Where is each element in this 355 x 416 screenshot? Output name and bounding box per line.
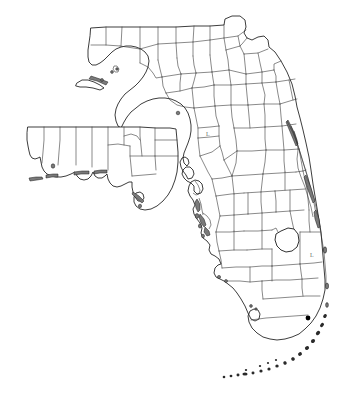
key-islet-17: [259, 365, 261, 367]
western-panhandle-outline: [27, 127, 178, 210]
key-islet-12: [252, 372, 255, 375]
bigbend-islet-1: [176, 111, 180, 115]
atlantic-barrier-islet-a: [323, 247, 326, 253]
key-islet-13: [242, 372, 247, 375]
map-canvas: L L: [0, 0, 355, 416]
gulf-barrier-islet-9: [250, 305, 253, 308]
florida-map-svg: L L: [0, 0, 355, 416]
key-islet-10: [267, 368, 270, 371]
key-islet-03: [315, 330, 321, 336]
key-islet-19: [275, 359, 277, 361]
key-islet-20: [245, 369, 247, 371]
lake-county-label: L: [206, 131, 210, 137]
nw-barrier-islet-4: [116, 68, 119, 71]
lake-okeechobee-label: L: [310, 252, 314, 258]
key-islet-02: [319, 322, 325, 328]
key-islet-07: [291, 357, 296, 362]
key-islet-11: [259, 370, 262, 373]
nw-barrier-islet-2: [101, 79, 104, 82]
key-islet-06: [297, 351, 302, 356]
gulf-barrier-islet-4: [195, 214, 199, 219]
gulf-barrier-islet-10: [255, 308, 257, 310]
key-islet-15: [230, 375, 233, 378]
key-islet-18: [267, 362, 269, 364]
atlantic-barrier-islet-b: [325, 283, 328, 289]
atlantic-barrier-islet-c: [326, 303, 329, 308]
key-islet-09: [275, 364, 278, 367]
key-islet-01: [322, 313, 327, 318]
western-panhandle-group: [27, 127, 178, 210]
panhandle-barrier-islet-6: [51, 164, 55, 168]
key-islet-14: [237, 374, 240, 377]
southeast-city-marker: [306, 316, 311, 321]
key-islet-04: [310, 338, 316, 344]
key-islet-05: [304, 345, 310, 350]
key-islet-16: [223, 376, 226, 378]
point-markers-group: [306, 316, 311, 321]
panhandle-barrier-island-1: [29, 177, 43, 181]
panhandle-barrier-islet-7: [138, 204, 141, 208]
gulf-barrier-islet-5: [198, 224, 201, 228]
gulf-barrier-islet-7: [217, 275, 220, 278]
key-islet-08: [283, 361, 287, 366]
gulf-barrier-islet-6: [202, 234, 205, 238]
nw-barrier-islet-3: [111, 71, 114, 74]
gulf-barrier-islet-8: [225, 280, 228, 283]
